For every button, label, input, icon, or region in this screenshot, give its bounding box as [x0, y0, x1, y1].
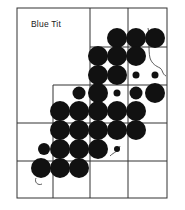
record-dot	[88, 120, 108, 140]
record-dot	[88, 65, 108, 85]
record-dot	[114, 146, 120, 152]
record-dot	[31, 158, 51, 178]
record-dot	[130, 87, 143, 100]
record-dot	[126, 101, 146, 121]
record-dot	[88, 46, 108, 66]
record-dot	[114, 90, 121, 97]
record-dot	[145, 83, 165, 103]
map-figure	[0, 0, 185, 210]
record-dot	[126, 46, 146, 66]
record-dot	[107, 101, 127, 121]
record-dot	[88, 101, 108, 121]
record-dots	[31, 28, 165, 178]
record-dot	[88, 139, 108, 159]
record-dot	[145, 28, 165, 48]
map-title: Blue Tit	[31, 19, 61, 29]
record-dot	[133, 72, 140, 79]
record-dot	[107, 28, 127, 48]
record-dot	[73, 87, 86, 100]
record-dot	[38, 143, 50, 155]
record-dot	[50, 158, 70, 178]
record-dot	[107, 65, 127, 85]
record-dot	[107, 46, 127, 66]
record-dot	[69, 139, 89, 159]
record-dot	[69, 158, 89, 178]
record-dot	[50, 120, 70, 140]
record-dot	[126, 120, 146, 140]
record-dot	[126, 28, 146, 48]
record-dot	[69, 120, 89, 140]
record-dot	[50, 101, 70, 121]
record-dot	[107, 120, 127, 140]
record-dot	[69, 101, 89, 121]
record-dot	[50, 139, 70, 159]
record-dot	[88, 83, 108, 103]
record-dot	[152, 72, 159, 79]
